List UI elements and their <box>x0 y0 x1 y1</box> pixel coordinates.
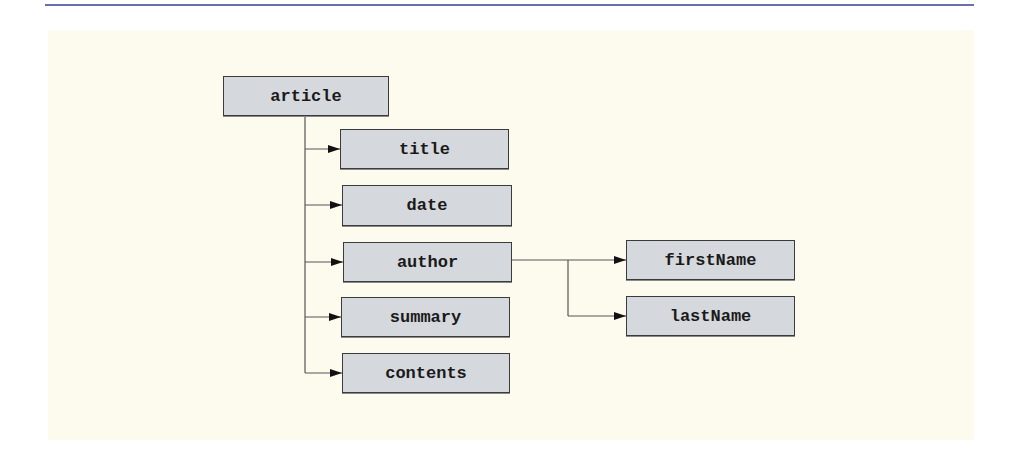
node-author: author <box>343 242 512 282</box>
node-date: date <box>342 185 512 226</box>
node-summary: summary <box>341 297 510 337</box>
node-contents: contents <box>342 353 510 393</box>
node-title: title <box>340 129 509 169</box>
tree-connectors <box>0 0 1016 466</box>
node-firstName: firstName <box>626 240 795 280</box>
node-lastName: lastName <box>626 296 795 336</box>
node-article: article <box>223 76 389 116</box>
